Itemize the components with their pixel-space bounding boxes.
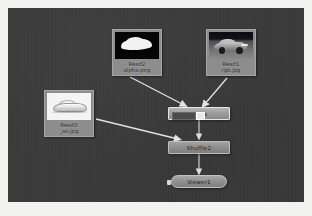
node-mask-swatch [172, 112, 196, 120]
node-graph-canvas[interactable]: Read2 alpha.png Read1 rgb.jpg Read3 _ao.… [8, 8, 304, 202]
wire-read3-to-shuffle2 [96, 119, 178, 139]
read3-label: Read3 _ao.jpg [47, 120, 91, 136]
read2-label: Read2 alpha.png [115, 59, 159, 75]
node-viewer1[interactable]: Viewer1 [171, 175, 227, 188]
wire-read2-to-merge [130, 77, 184, 105]
node-shufflecopy-alpha[interactable]: alpha [168, 107, 230, 120]
node-read3[interactable]: Read3 _ao.jpg [44, 90, 94, 137]
node-read2[interactable]: Read2 alpha.png [112, 29, 162, 76]
viewer1-label: Viewer1 [187, 179, 211, 185]
read3-thumbnail [47, 93, 91, 120]
read2-thumbnail [115, 32, 159, 59]
read1-label: Read1 rgb.jpg [209, 59, 253, 75]
node-read1[interactable]: Read1 rgb.jpg [206, 29, 256, 76]
read1-thumbnail [209, 32, 253, 59]
nuke-node-graph-window: Read2 alpha.png Read1 rgb.jpg Read3 _ao.… [0, 0, 312, 216]
node-highlight-swatch [196, 112, 205, 120]
viewer-input-pip [167, 180, 171, 185]
node-shuffle2[interactable]: Shuffle2 [168, 141, 230, 154]
wire-read1-to-merge [204, 78, 227, 105]
shuffle2-label: Shuffle2 [187, 145, 211, 151]
